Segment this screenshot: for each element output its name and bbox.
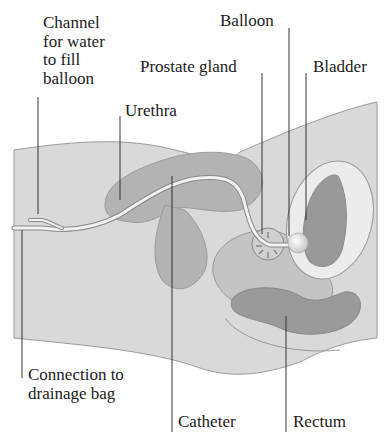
- label-balloon: Balloon: [220, 12, 274, 31]
- label-catheter: Catheter: [178, 413, 236, 432]
- balloon: [288, 233, 308, 253]
- label-rectum: Rectum: [293, 413, 346, 432]
- label-bladder: Bladder: [313, 58, 367, 77]
- label-urethra: Urethra: [125, 102, 177, 121]
- label-prostate: Prostate gland: [140, 58, 237, 77]
- label-connection: Connection to drainage bag: [28, 366, 124, 403]
- label-channel: Channel for water to fill balloon: [43, 14, 105, 88]
